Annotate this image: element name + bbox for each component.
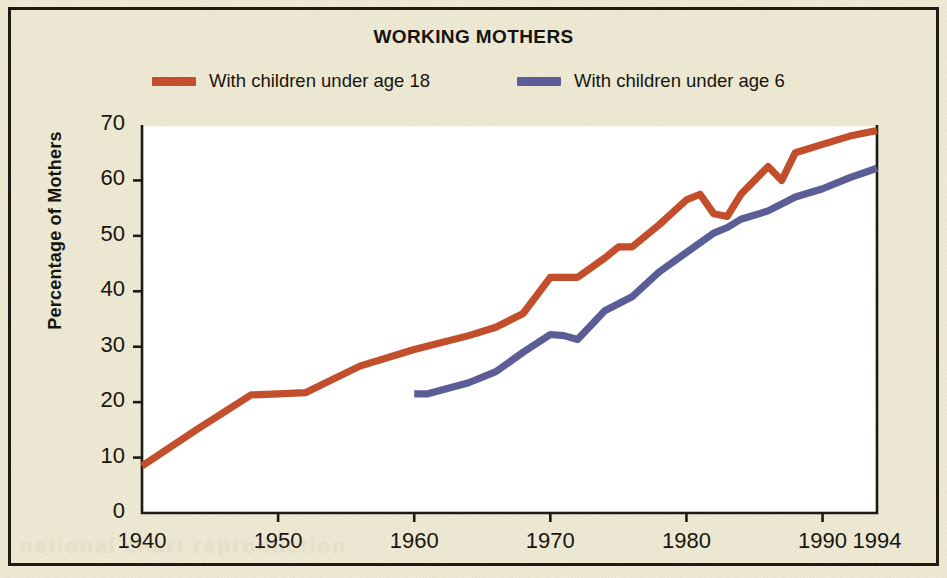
x-axis-tick-label: 1970 xyxy=(505,528,595,554)
y-axis-tick-label: 50 xyxy=(69,221,125,247)
y-axis-tick-label: 10 xyxy=(69,443,125,469)
y-axis-tick-label: 40 xyxy=(69,276,125,302)
chart-figure: WORKING MOTHERS With children under age … xyxy=(0,0,947,578)
y-axis-tick-label: 60 xyxy=(69,165,125,191)
x-axis-tick-label: 1940 xyxy=(97,528,187,554)
y-axis-tick-label: 20 xyxy=(69,387,125,413)
x-axis-tick-label: 1960 xyxy=(369,528,459,554)
y-axis-tick-label: 70 xyxy=(69,110,125,136)
plot-svg xyxy=(0,0,947,578)
x-axis-tick-label: 1994 xyxy=(832,528,922,554)
y-axis-tick-label: 30 xyxy=(69,332,125,358)
plot-area-wrapper: Percentage of Mothers 010203040506070194… xyxy=(0,0,947,578)
y-axis-title: Percentage of Mothers xyxy=(45,66,66,396)
x-axis-tick-label: 1950 xyxy=(233,528,323,554)
x-axis-tick-label: 1980 xyxy=(641,528,731,554)
y-axis-tick-label: 0 xyxy=(69,498,125,524)
